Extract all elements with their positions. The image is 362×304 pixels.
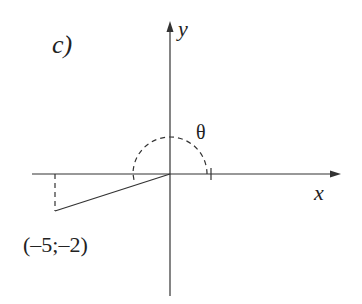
x-axis-arrow-icon xyxy=(330,171,341,178)
angle-label: θ xyxy=(196,122,206,142)
diagram-canvas: c) y x θ (–5;–2) xyxy=(0,0,362,304)
terminal-side-line xyxy=(55,174,170,211)
y-axis-label: y xyxy=(178,18,188,40)
part-label: c) xyxy=(52,32,72,58)
y-axis-arrow-icon xyxy=(167,21,174,32)
point-label: (–5;–2) xyxy=(23,234,88,256)
x-axis-label: x xyxy=(314,182,324,204)
